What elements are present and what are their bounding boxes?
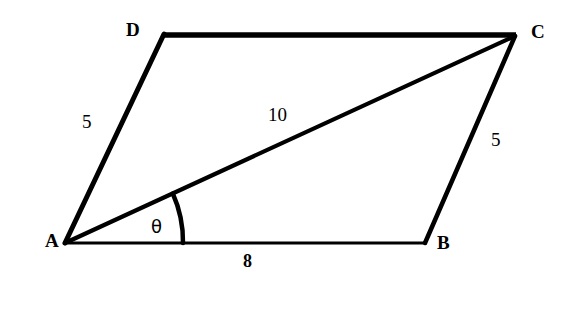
angle-arc-theta	[173, 194, 183, 244]
diagonal-length-label-ac: 10	[268, 105, 287, 124]
side-length-label-bc: 5	[491, 130, 501, 149]
angle-label-theta: θ	[151, 218, 162, 236]
diagonal-ac	[65, 36, 515, 243]
edge-ad	[65, 34, 164, 243]
vertex-label-c: C	[531, 22, 545, 41]
vertex-label-d: D	[126, 20, 140, 39]
geometry-figure: D C A B 5 10 5 8 θ	[0, 0, 574, 309]
parallelogram-drawing	[0, 0, 574, 309]
edge-bc	[425, 36, 515, 243]
side-length-label-ad: 5	[82, 112, 92, 131]
vertex-label-a: A	[45, 231, 59, 250]
side-length-label-ab: 8	[243, 252, 252, 270]
vertex-label-b: B	[437, 233, 450, 252]
